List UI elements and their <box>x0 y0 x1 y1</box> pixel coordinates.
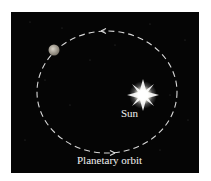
planet-icon <box>49 45 60 56</box>
sun-label: Sun <box>121 108 138 119</box>
background-stars <box>24 21 188 150</box>
planetary-orbit-label: Planetary orbit <box>77 155 142 166</box>
